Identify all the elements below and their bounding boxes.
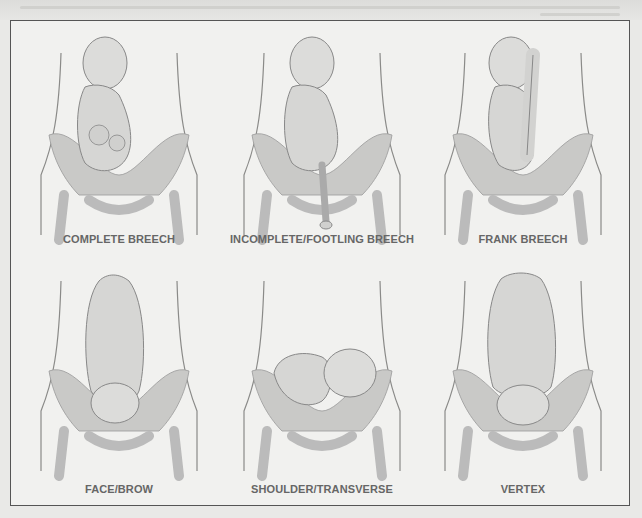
panel-label: VERTEX: [423, 483, 623, 495]
footling-breech-illustration: [222, 25, 422, 245]
panel-incomplete-footling-breech: INCOMPLETE/FOOTLING BREECH: [222, 25, 422, 255]
panel-face-brow: FACE/BROW: [19, 261, 219, 491]
face-brow-illustration: [19, 261, 219, 481]
faded-text-line: [20, 6, 620, 9]
panel-label: SHOULDER/TRANSVERSE: [222, 483, 422, 495]
page-bleed-top: [0, 0, 642, 20]
complete-breech-illustration: [19, 25, 219, 245]
panel-label: INCOMPLETE/FOOTLING BREECH: [222, 233, 422, 245]
frank-breech-illustration: [423, 25, 623, 245]
shoulder-transverse-illustration: [222, 261, 422, 481]
panel-label: FRANK BREECH: [423, 233, 623, 245]
panel-label: FACE/BROW: [19, 483, 219, 495]
vertex-illustration: [423, 261, 623, 481]
panel-label: COMPLETE BREECH: [19, 233, 219, 245]
figure-frame: COMPLETE BREECH INCOMPLETE/FOOTLING BREE…: [10, 20, 630, 506]
faded-text-line: [540, 13, 620, 16]
panel-complete-breech: COMPLETE BREECH: [19, 25, 219, 255]
panel-shoulder-transverse: SHOULDER/TRANSVERSE: [222, 261, 422, 491]
panel-frank-breech: FRANK BREECH: [423, 25, 623, 255]
panel-vertex: VERTEX: [423, 261, 623, 491]
